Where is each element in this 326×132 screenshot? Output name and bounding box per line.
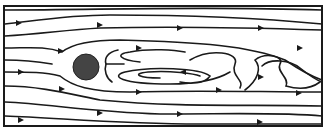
cylinder-obstacle	[73, 54, 99, 80]
streamline-diagram	[0, 0, 326, 132]
frame	[4, 6, 322, 126]
